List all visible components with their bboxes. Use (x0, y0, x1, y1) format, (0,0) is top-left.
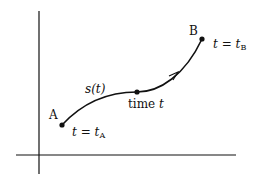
trajectory-curve (62, 39, 202, 125)
time-t-label: time t (128, 97, 164, 111)
curve-label: s(t) (85, 82, 106, 96)
time-b-label: t = tB (213, 37, 246, 52)
point-a-label: A (48, 108, 58, 122)
time-a-label: t = tA (72, 125, 105, 140)
point-time-t (134, 89, 139, 94)
point-b (199, 36, 204, 41)
trajectory-diagram: A t = tA s(t) time t B t = tB (0, 0, 254, 181)
point-a (59, 122, 64, 127)
direction-arrow-icon (169, 72, 178, 80)
point-b-label: B (189, 24, 198, 38)
